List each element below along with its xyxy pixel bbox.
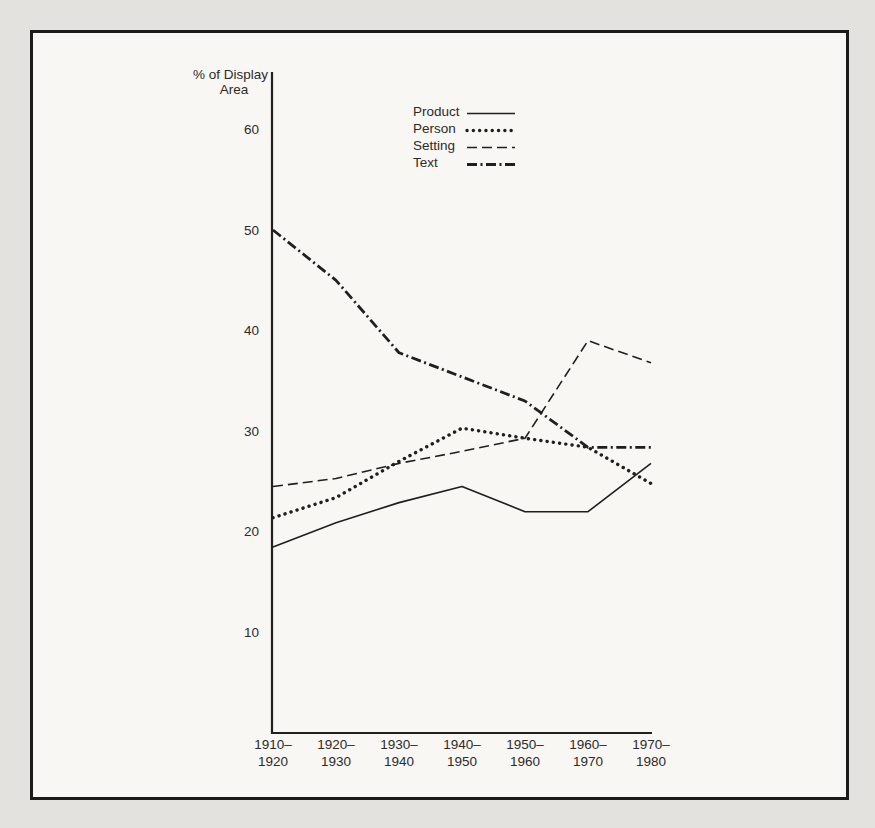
- x-tick-label-line1: 1940–: [443, 737, 481, 752]
- x-tick-label-line2: 1960: [510, 754, 540, 769]
- x-tick-label-line1: 1960–: [569, 737, 607, 752]
- legend-label: Product: [413, 104, 460, 119]
- x-tick-label-line1: 1970–: [632, 737, 670, 752]
- y-tick-label: 40: [244, 323, 259, 338]
- y-tick-label: 20: [244, 524, 259, 539]
- x-tick-label-line1: 1920–: [317, 737, 355, 752]
- line-chart-figure: % of Display Area 605040302010 1910–1920…: [0, 0, 875, 828]
- x-tick-label-line1: 1930–: [380, 737, 418, 752]
- x-tick-label-line1: 1910–: [254, 737, 292, 752]
- y-axis-title-line1: % of Display: [193, 67, 268, 82]
- legend-label: Person: [413, 121, 456, 136]
- x-tick-label-line1: 1950–: [506, 737, 544, 752]
- x-tick-label-line2: 1980: [636, 754, 666, 769]
- y-tick-label: 10: [244, 625, 259, 640]
- x-tick-label-line2: 1970: [573, 754, 603, 769]
- x-tick-label-line2: 1950: [447, 754, 477, 769]
- scanned-page: % of Display Area 605040302010 1910–1920…: [0, 0, 875, 828]
- y-axis-title-line2: Area: [220, 82, 249, 97]
- y-tick-label: 30: [244, 424, 259, 439]
- legend-label: Setting: [413, 138, 455, 153]
- y-tick-label: 60: [244, 122, 259, 137]
- legend-label: Text: [413, 155, 438, 170]
- x-tick-label-line2: 1920: [258, 754, 288, 769]
- x-tick-label-line2: 1940: [384, 754, 414, 769]
- y-tick-label: 50: [244, 223, 259, 238]
- x-tick-label-line2: 1930: [321, 754, 351, 769]
